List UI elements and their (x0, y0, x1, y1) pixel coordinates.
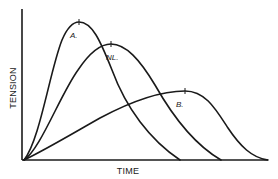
curve-a-label: A. (69, 31, 78, 40)
curve-a (24, 22, 180, 160)
curve-nl (24, 44, 221, 160)
y-axis-label: TENSION (8, 67, 18, 108)
x-axis-label: TIME (117, 166, 139, 176)
tension-time-diagram: A. NL. B. TENSION TIME (0, 0, 278, 179)
curve-nl-label: NL. (106, 53, 118, 62)
curve-b-label: B. (176, 100, 184, 109)
